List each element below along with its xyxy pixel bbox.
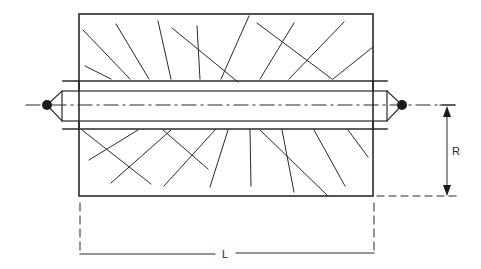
hatch-line — [348, 130, 368, 157]
upper-hatch — [83, 16, 373, 82]
hatch-line — [85, 66, 111, 79]
hatch-line — [289, 22, 344, 79]
hatch-line — [314, 130, 345, 186]
hatch-line — [116, 24, 149, 79]
shaft-inner — [62, 91, 387, 121]
hatch-line — [83, 30, 130, 79]
hatch-line — [197, 26, 200, 79]
roll-drawing: R L — [0, 0, 481, 269]
hatch-line — [158, 21, 171, 79]
radius-arrow-up-icon — [443, 106, 451, 117]
hatch-line — [210, 130, 228, 187]
hatch-line — [172, 28, 238, 82]
hatch-line — [221, 16, 249, 79]
left-center-point-icon — [42, 100, 52, 110]
hatch-line — [260, 23, 294, 79]
hatch-line — [257, 23, 332, 79]
hatch-line — [260, 130, 328, 196]
hatch-line — [250, 130, 251, 186]
hatch-line — [89, 130, 138, 160]
lower-hatch — [82, 130, 368, 196]
radius-arrow-down-icon — [443, 185, 451, 196]
right-center-point-icon — [397, 100, 407, 110]
length-label: L — [222, 248, 228, 260]
hatch-line — [111, 130, 171, 183]
hatch-line — [333, 47, 373, 79]
diagram-canvas: R L — [0, 0, 481, 269]
radius-label: R — [452, 145, 460, 157]
hatch-line — [163, 130, 208, 169]
hatch-line — [164, 130, 215, 186]
